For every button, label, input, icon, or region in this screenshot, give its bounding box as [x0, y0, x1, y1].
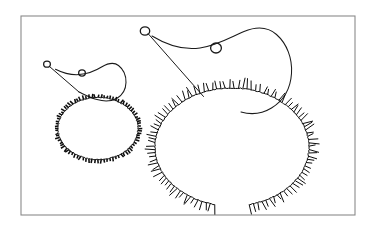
pointer-line [148, 34, 204, 97]
head-outline [56, 63, 127, 101]
body-tick-marks [55, 94, 142, 164]
body-arc [58, 97, 139, 160]
pointer-tip-circle [140, 27, 149, 35]
body-tick-marks [145, 78, 320, 215]
eye-circle [79, 70, 86, 76]
pointer-line [50, 67, 80, 93]
figure-border [21, 16, 355, 215]
small-duck-shape [44, 61, 143, 163]
body-arc [155, 88, 310, 205]
pointer-tip-circle [44, 61, 51, 67]
large-duck-shape [140, 27, 319, 215]
figure-container [0, 0, 368, 234]
eye-circle [211, 43, 222, 53]
figure-canvas [0, 0, 368, 234]
